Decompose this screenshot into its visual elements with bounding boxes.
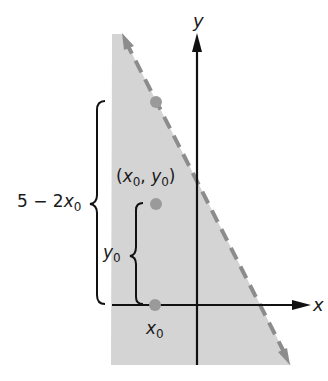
small-brace-label: y0: [103, 242, 121, 262]
point-x-sub: 0: [133, 175, 141, 189]
point-x0-y0: [150, 198, 162, 210]
expr-prefix: 5 − 2: [17, 191, 64, 211]
x-axis-label: x: [313, 294, 324, 315]
expr-sub: 0: [74, 200, 82, 214]
comma: ,: [140, 166, 151, 186]
y-axis-label: y: [193, 10, 204, 31]
x0-sub: 0: [156, 327, 164, 341]
y0-sub: 0: [113, 251, 121, 265]
y0-var: y: [103, 242, 113, 262]
point-y-var: y: [151, 166, 161, 186]
boundary-point: [150, 96, 162, 108]
x0-label: x0: [146, 318, 164, 338]
boundary-arrow-top-icon: [122, 33, 134, 50]
big-brace-label: 5 − 2x0: [17, 191, 81, 211]
x0-var: x: [146, 318, 156, 338]
x-axis-arrow-icon: [292, 300, 311, 310]
diagram-canvas: y x (x0, y0) 5 − 2x0 y0 x0: [0, 0, 328, 381]
point-y-sub: 0: [161, 175, 169, 189]
expr-var: x: [64, 191, 74, 211]
y-axis-arrow-icon: [192, 33, 202, 52]
paren-open: (: [116, 166, 123, 186]
point-x-var: x: [123, 166, 133, 186]
point-label: (x0, y0): [116, 166, 176, 186]
point-x0-on-axis: [149, 299, 161, 311]
paren-close: ): [169, 166, 176, 186]
big-brace: [90, 101, 105, 304]
